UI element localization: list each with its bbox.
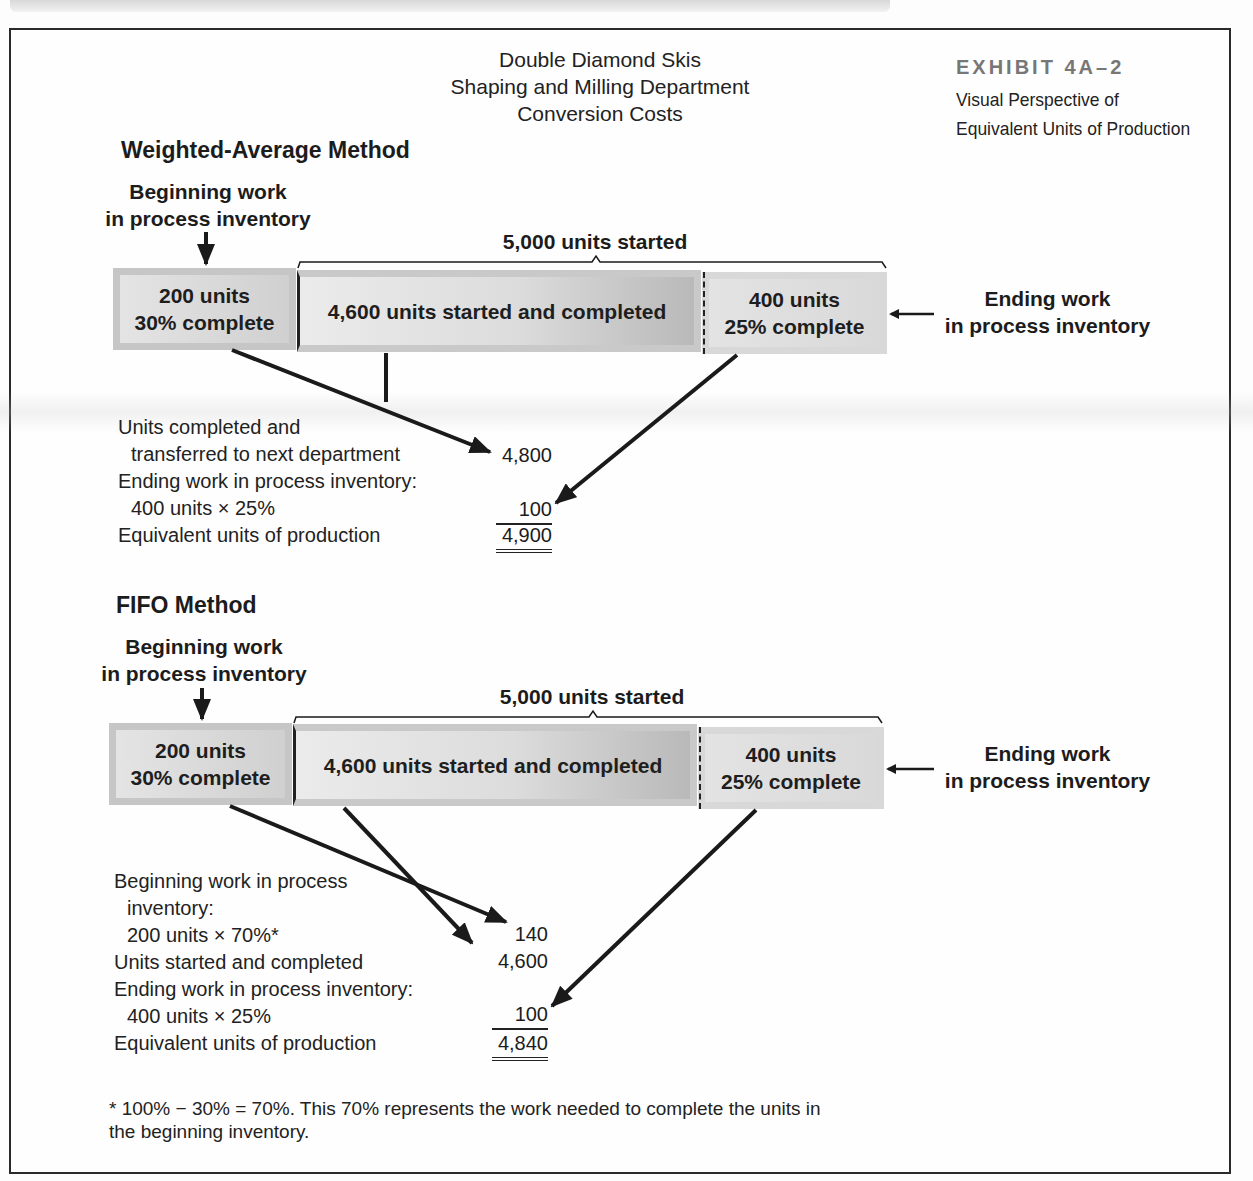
weighted-average-title: Weighted-Average Method — [121, 137, 410, 164]
fifo-units-started-label: 5,000 units started — [437, 683, 747, 710]
fifo-calculation-labels: Beginning work in process inventory: 200… — [114, 868, 494, 1057]
wa-beginning-wip-box: 200 units 30% complete — [113, 268, 296, 350]
scan-smudge — [10, 0, 890, 12]
fifo-ending-label: Ending work in process inventory — [930, 740, 1165, 794]
calc-label: 400 units × 25% — [118, 495, 498, 522]
exhibit-caption: Visual Perspective of Equivalent Units o… — [956, 85, 1190, 143]
label-line: Ending work — [930, 740, 1165, 767]
calc-label: Beginning work in process — [114, 868, 494, 895]
title-department: Shaping and Milling Department — [400, 73, 800, 100]
calc-label: transferred to next department — [118, 441, 498, 468]
calc-label: Ending work in process inventory: — [114, 976, 494, 1003]
wa-ending-wip-value: 100 — [496, 496, 552, 525]
label-line: in process inventory — [930, 767, 1165, 794]
calc-label: Ending work in process inventory: — [118, 468, 498, 495]
calc-label: inventory: — [114, 895, 494, 922]
fifo-started-completed-value: 4,600 — [488, 948, 548, 975]
fifo-started-completed-box: 4,600 units started and completed — [293, 724, 697, 806]
box-line: 200 units — [130, 737, 270, 764]
wa-dashed-divider — [703, 272, 705, 354]
calc-label: 200 units × 70%* — [114, 922, 494, 949]
footnote: * 100% − 30% = 70%. This 70% represents … — [109, 1097, 989, 1143]
fifo-beginning-label: Beginning work in process inventory — [88, 633, 320, 687]
diagram-title: Double Diamond Skis Shaping and Milling … — [400, 46, 800, 127]
footnote-line: the beginning inventory. — [109, 1120, 989, 1143]
exhibit-caption-line: Equivalent Units of Production — [956, 114, 1190, 143]
box-line: 400 units — [721, 741, 861, 768]
box-line: 30% complete — [130, 764, 270, 791]
box-text: 4,600 units started and completed — [328, 298, 666, 325]
fifo-ending-wip-box: 400 units 25% complete — [698, 727, 884, 809]
calc-label: Equivalent units of production — [118, 522, 498, 549]
fifo-ending-wip-value: 100 — [492, 1001, 548, 1030]
fifo-beginning-wip-box: 200 units 30% complete — [109, 723, 292, 805]
label-line: in process inventory — [88, 660, 320, 687]
label-line: Beginning work — [92, 178, 324, 205]
box-line: 400 units — [724, 286, 864, 313]
box-line: 200 units — [134, 282, 274, 309]
calc-label: Equivalent units of production — [114, 1030, 494, 1057]
title-company: Double Diamond Skis — [400, 46, 800, 73]
exhibit-number: EXHIBIT 4A–2 — [956, 56, 1124, 79]
wa-beginning-label: Beginning work in process inventory — [92, 178, 324, 232]
calc-label: 400 units × 25% — [114, 1003, 494, 1030]
box-text: 4,600 units started and completed — [324, 752, 662, 779]
label-line: Beginning work — [88, 633, 320, 660]
box-line: 30% complete — [134, 309, 274, 336]
wa-equivalent-units-total: 4,900 — [496, 522, 552, 553]
label-line: Ending work — [930, 285, 1165, 312]
title-cost-type: Conversion Costs — [400, 100, 800, 127]
label-line: in process inventory — [930, 312, 1165, 339]
fifo-title: FIFO Method — [116, 592, 257, 619]
calc-label: Units completed and — [118, 414, 498, 441]
wa-transferred-value: 4,800 — [492, 442, 552, 469]
wa-calculation-labels: Units completed and transferred to next … — [118, 414, 498, 549]
box-line: 25% complete — [721, 768, 861, 795]
exhibit-caption-line: Visual Perspective of — [956, 85, 1190, 114]
wa-started-completed-box: 4,600 units started and completed — [297, 270, 701, 352]
wa-ending-label: Ending work in process inventory — [930, 285, 1165, 339]
calc-label: Units started and completed — [114, 949, 494, 976]
wa-ending-wip-box: 400 units 25% complete — [702, 272, 887, 354]
fifo-dashed-divider — [699, 727, 701, 809]
box-line: 25% complete — [724, 313, 864, 340]
fifo-beginning-wip-value: 140 — [488, 921, 548, 948]
label-line: in process inventory — [92, 205, 324, 232]
footnote-line: * 100% − 30% = 70%. This 70% represents … — [109, 1097, 989, 1120]
fifo-equivalent-units-total: 4,840 — [492, 1030, 548, 1061]
wa-units-started-label: 5,000 units started — [440, 228, 750, 255]
